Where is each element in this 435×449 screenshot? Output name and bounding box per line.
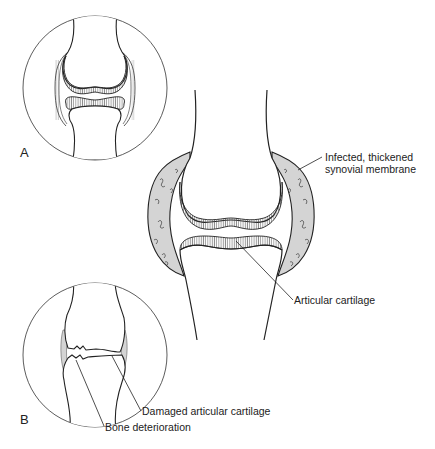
joint-diagram [0,0,435,449]
label-articular-cartilage: Articular cartilage [294,294,375,306]
panel-a-normal-joint [23,14,167,160]
panel-label-b: B [20,412,29,427]
label-bone-deterioration: Bone deterioration [105,421,191,433]
label-synovial-line1: Infected, thickened [325,151,413,163]
panel-label-a: A [20,145,29,160]
label-synovial-line2: synovial membrane [325,163,416,175]
label-damaged-cartilage: Damaged articular cartilage [142,405,270,417]
